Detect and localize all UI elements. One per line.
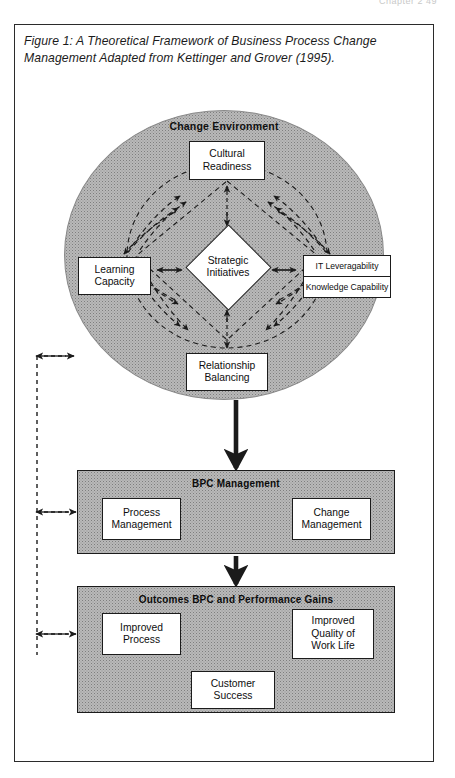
bpc-management-title: BPC Management: [78, 478, 394, 489]
node-change-management[interactable]: Change Management: [292, 498, 371, 540]
node-improved-quality-of-work-life[interactable]: Improved Quality of Work Life: [292, 609, 374, 659]
node-it-leveragability-label: IT Leveragability: [304, 256, 390, 277]
node-relationship-balancing[interactable]: Relationship Balancing: [186, 353, 268, 391]
node-strategic-initiatives-line1: Strategic: [208, 255, 249, 267]
node-relationship-balancing-line1: Relationship: [199, 360, 256, 372]
node-learning-capacity[interactable]: Learning Capacity: [78, 257, 151, 295]
node-learning-capacity-line1: Learning: [94, 264, 134, 276]
node-cultural-readiness-line1: Cultural: [209, 148, 244, 160]
change-environment-label: Change Environment: [64, 120, 384, 132]
node-it-leveragability-knowledge-capability[interactable]: IT Leveragability Knowledge Capability: [303, 255, 391, 298]
node-improved-process-line1: Improved: [120, 622, 163, 634]
node-cultural-readiness-line2: Readiness: [203, 161, 252, 173]
node-change-management-line1: Change: [313, 507, 349, 519]
node-customer-success-line1: Customer: [211, 678, 256, 690]
node-improved-quality-line2: Quality of: [311, 628, 355, 640]
node-improved-quality-line1: Improved: [312, 615, 355, 627]
node-process-management[interactable]: Process Management: [102, 498, 181, 540]
node-improved-process-line2: Process: [123, 634, 160, 646]
node-strategic-initiatives-label: Strategic Initiatives: [185, 224, 271, 310]
node-strategic-initiatives-line2: Initiatives: [207, 267, 250, 279]
outcomes-section: Outcomes BPC and Performance Gains Impro…: [77, 586, 395, 713]
node-process-management-line2: Management: [111, 519, 171, 531]
node-process-management-line1: Process: [123, 507, 160, 519]
node-strategic-initiatives[interactable]: Strategic Initiatives: [185, 224, 271, 310]
node-customer-success-line2: Success: [214, 690, 253, 702]
node-improved-process[interactable]: Improved Process: [102, 613, 181, 655]
framework-diagram: Change Environment: [0, 0, 455, 778]
node-customer-success[interactable]: Customer Success: [191, 671, 275, 709]
node-cultural-readiness[interactable]: Cultural Readiness: [189, 141, 265, 180]
node-change-management-line2: Management: [301, 519, 361, 531]
outcomes-title: Outcomes BPC and Performance Gains: [78, 594, 394, 605]
node-improved-quality-line3: Work Life: [311, 640, 354, 652]
node-learning-capacity-line2: Capacity: [94, 276, 134, 288]
node-knowledge-capability-label: Knowledge Capability: [304, 277, 390, 297]
node-relationship-balancing-line2: Balancing: [204, 372, 249, 384]
bpc-management-section: BPC Management Process Management Change…: [77, 470, 395, 554]
